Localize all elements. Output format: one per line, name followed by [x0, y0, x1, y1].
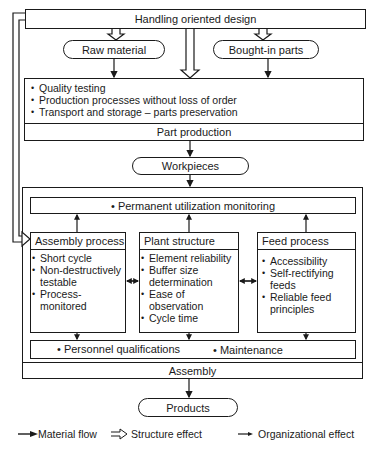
plant-structure-header: Plant structure [140, 233, 238, 250]
workpieces-pill: Workpieces [132, 157, 249, 175]
bullet-ease-of-observation: Ease of observation [141, 288, 238, 312]
assembly-label: Assembly [169, 365, 217, 377]
part-production-box: Quality testing Production processes wit… [24, 78, 364, 141]
personnel-maintenance-box: • Personnel qualifications • Maintenance [30, 340, 356, 359]
structure-arrow-center [181, 29, 199, 78]
bought-in-parts-pill: Bought-in parts [213, 40, 319, 59]
raw-material-pill: Raw material [63, 40, 165, 59]
bullet-buffer-size: Buffer size determination [141, 264, 238, 288]
assembly-process-header: Assembly process [31, 233, 125, 250]
assembly-process-bullets: Short cycle Non-destructively testable P… [32, 252, 125, 312]
maintenance-label: • Maintenance [213, 344, 283, 356]
handling-oriented-design-box: Handling oriented design [25, 9, 366, 29]
bullet-process-monitored: Process-monitored [32, 288, 125, 312]
permanent-utilization-monitoring-label: • Permanent utilization monitoring [111, 200, 275, 212]
legend-structure-effect: Structure effect [110, 428, 202, 440]
assembly-process-title: Assembly process [35, 235, 124, 247]
structure-arrow-raw-material [108, 29, 124, 40]
assembly-process-box: Assembly process Short cycle Non-destruc… [30, 232, 126, 333]
plant-structure-title: Plant structure [144, 235, 215, 247]
bullet-short-cycle: Short cycle [32, 252, 125, 264]
bought-in-parts-label: Bought-in parts [229, 44, 304, 56]
bullet-cycle-time: Cycle time [141, 312, 238, 324]
organizational-effect-arrow-icon [238, 431, 254, 437]
products-label: Products [166, 402, 209, 414]
bullet-production-processes: Production processes without loss of ord… [31, 94, 238, 106]
feed-process-bullets: Accessibility Self-rectifying feeds Reli… [262, 255, 342, 315]
bullet-non-destructively-testable: Non-destructively testable [32, 264, 125, 288]
part-production-strip: Part production [25, 123, 363, 140]
structure-arrow-bought-in [255, 29, 271, 40]
bullet-self-rectifying-feeds: Self-rectifying feeds [262, 267, 342, 291]
legend-material-flow-label: Material flow [38, 428, 97, 440]
legend-organizational-effect-label: Organizational effect [258, 428, 354, 440]
permanent-utilization-monitoring-box: • Permanent utilization monitoring [30, 197, 356, 214]
legend-organizational-effect: Organizational effect [238, 428, 354, 440]
bullet-transport-storage: Transport and storage – parts preservati… [31, 106, 238, 118]
feed-process-box: Feed process Accessibility Self-rectifyi… [257, 232, 356, 333]
material-flow-arrow-icon [18, 430, 38, 438]
assembly-strip: Assembly [23, 362, 362, 378]
part-production-bullets: Quality testing Production processes wit… [31, 82, 238, 118]
plant-structure-bullets: Element reliability Buffer size determin… [141, 252, 238, 324]
feed-process-header: Feed process [258, 233, 355, 250]
bullet-accessibility: Accessibility [262, 255, 342, 267]
raw-material-label: Raw material [82, 44, 146, 56]
structure-effect-arrow-icon [110, 428, 128, 440]
part-production-label: Part production [157, 126, 232, 138]
legend-material-flow: Material flow [18, 428, 97, 440]
bullet-quality-testing: Quality testing [31, 82, 238, 94]
personnel-qualifications-label: • Personnel qualifications [57, 343, 180, 355]
bullet-element-reliability: Element reliability [141, 252, 238, 264]
legend-structure-effect-label: Structure effect [131, 428, 202, 440]
workpieces-label: Workpieces [162, 160, 219, 172]
products-pill: Products [138, 398, 238, 417]
plant-structure-box: Plant structure Element reliability Buff… [139, 232, 239, 333]
bullet-reliable-feed-principles: Reliable feed principles [262, 291, 342, 315]
handling-oriented-design-label: Handling oriented design [135, 13, 257, 25]
feed-process-title: Feed process [262, 235, 329, 247]
